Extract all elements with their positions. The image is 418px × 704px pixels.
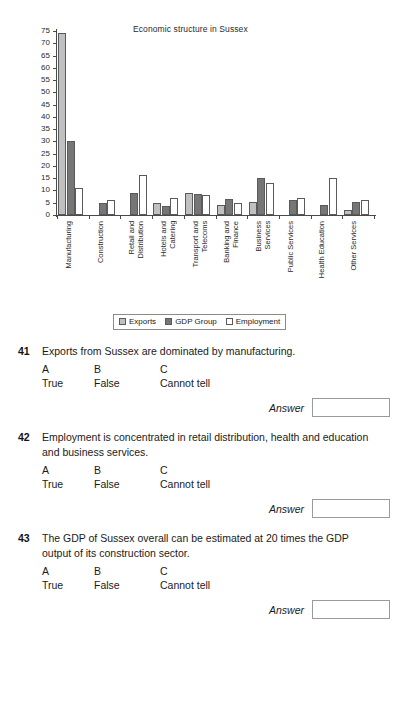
bar-gdp-group-hotels-and-catering [162, 206, 170, 215]
x-axis-label-other-services: Other Services [349, 221, 358, 271]
bar-exports-manufacturing [58, 33, 66, 215]
bar-gdp-group-retail-and-distribution [130, 193, 138, 215]
question-header: 42Employment is concentrated in retail d… [18, 430, 400, 460]
y-tick-label: 5 [28, 199, 50, 207]
option-label-c[interactable]: Cannot tell [160, 477, 210, 491]
x-axis-label-business-services: BusinessServices [254, 221, 272, 251]
option-letter-a[interactable]: A [42, 362, 94, 376]
x-tick-mark [216, 215, 217, 219]
bar-employment-business-services [266, 183, 274, 215]
option-label-a[interactable]: True [42, 376, 94, 390]
x-axis-label-manufacturing: Manufacturing [64, 221, 73, 269]
bar-employment-public-services [297, 198, 305, 215]
option-letter-c[interactable]: C [160, 564, 168, 578]
bar-gdp-group-health-education [320, 205, 328, 215]
x-label-line: Manufacturing [64, 221, 73, 269]
bar-employment-health-education [329, 178, 337, 215]
bar-employment-manufacturing [75, 188, 83, 215]
y-tick-label: 45 [28, 101, 50, 109]
answer-label: Answer [269, 402, 304, 414]
option-label-a[interactable]: True [42, 578, 94, 592]
bar-gdp-group-manufacturing [67, 141, 75, 215]
answer-input-box[interactable] [312, 499, 390, 518]
worksheet-page: Economic structure in Sussex 05101520253… [0, 0, 418, 704]
legend-label: Exports [129, 317, 156, 326]
legend-item-gdp-group: GDP Group [165, 317, 217, 326]
answer-input-box[interactable] [312, 398, 390, 417]
bar-exports-other-services [344, 210, 352, 215]
legend-swatch-icon [226, 318, 233, 325]
answer-label: Answer [269, 503, 304, 515]
option-label-b[interactable]: False [94, 477, 160, 491]
x-tick-mark [89, 215, 90, 219]
legend-label: Employment [236, 317, 280, 326]
option-label-b[interactable]: False [94, 376, 160, 390]
x-label-line: Banking and [222, 221, 231, 263]
y-tick-label: 0 [28, 211, 50, 219]
bar-series-layer [57, 31, 374, 215]
x-label-line: Retail and [127, 221, 136, 259]
option-label-b[interactable]: False [94, 578, 160, 592]
answer-input-box[interactable] [312, 600, 390, 619]
option-words-row: TrueFalseCannot tell [42, 376, 400, 390]
legend-item-employment: Employment [226, 317, 280, 326]
y-tick-label: 70 [28, 39, 50, 47]
bar-gdp-group-construction [99, 203, 107, 215]
option-letter-a[interactable]: A [42, 564, 94, 578]
y-tick-label: 25 [28, 150, 50, 158]
option-letter-c[interactable]: C [160, 463, 168, 477]
x-axis-label-public-services: Public Services [286, 221, 295, 272]
option-letter-b[interactable]: B [94, 463, 160, 477]
x-axis-label-health-education: Health Education [317, 221, 326, 278]
question-number: 41 [18, 344, 42, 359]
bar-gdp-group-other-services [352, 202, 360, 215]
bar-exports-banking-and-finance [217, 205, 225, 215]
x-tick-mark [311, 215, 312, 219]
plot-area [57, 31, 374, 215]
bar-employment-banking-and-finance [234, 203, 242, 215]
x-axis-label-construction: Construction [96, 221, 105, 263]
y-tick-label: 40 [28, 113, 50, 121]
y-tick-label: 30 [28, 137, 50, 145]
option-label-c[interactable]: Cannot tell [160, 376, 210, 390]
option-letter-c[interactable]: C [160, 362, 168, 376]
y-tick-label: 35 [28, 125, 50, 133]
question-43: 43The GDP of Sussex overall can be estim… [0, 531, 418, 619]
option-letter-b[interactable]: B [94, 564, 160, 578]
x-label-line: Telecoms [200, 221, 209, 267]
bar-employment-construction [107, 200, 115, 215]
x-axis-label-banking-and-finance: Banking andFinance [222, 221, 240, 263]
bar-exports-hotels-and-catering [153, 203, 161, 215]
question-41: 41Exports from Sussex are dominated by m… [0, 344, 418, 417]
question-header: 41Exports from Sussex are dominated by m… [18, 344, 400, 359]
x-tick-mark [152, 215, 153, 219]
answer-row: Answer [18, 398, 400, 417]
x-axis-labels: ManufacturingConstructionRetail andDistr… [57, 221, 377, 309]
x-tick-mark [247, 215, 248, 219]
option-label-c[interactable]: Cannot tell [160, 578, 210, 592]
bar-employment-hotels-and-catering [170, 198, 178, 215]
x-tick-mark [184, 215, 185, 219]
question-text: The GDP of Sussex overall can be estimat… [42, 531, 372, 561]
x-label-line: Hotels and [159, 221, 168, 257]
bar-employment-transport-and-telecoms [202, 195, 210, 215]
option-letter-a[interactable]: A [42, 463, 94, 477]
option-label-a[interactable]: True [42, 477, 94, 491]
x-label-line: Other Services [349, 221, 358, 271]
x-tick-mark [57, 215, 58, 219]
legend-label: GDP Group [175, 317, 217, 326]
y-tick-label: 65 [28, 52, 50, 60]
chart-legend: ExportsGDP GroupEmployment [113, 314, 286, 330]
x-tick-mark [120, 215, 121, 219]
legend-swatch-icon [119, 318, 126, 325]
question-text: Employment is concentrated in retail dis… [42, 430, 372, 460]
x-label-line: Finance [231, 221, 240, 263]
legend-swatch-icon [165, 318, 172, 325]
x-axis-label-retail-and-distribution: Retail andDistribution [127, 221, 145, 259]
answer-options: ABCTrueFalseCannot tell [42, 463, 400, 491]
option-letter-b[interactable]: B [94, 362, 160, 376]
option-letters-row: ABC [42, 463, 400, 477]
x-label-line: Construction [96, 221, 105, 263]
y-tick-label: 15 [28, 174, 50, 182]
question-text: Exports from Sussex are dominated by man… [42, 344, 372, 359]
